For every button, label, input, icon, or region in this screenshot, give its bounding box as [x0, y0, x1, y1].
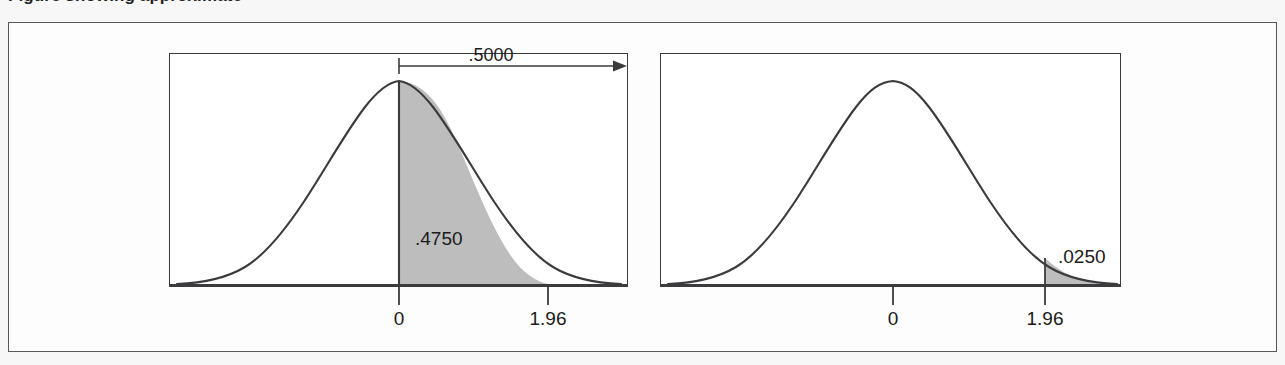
left-axis-tick-label-0: 0: [394, 308, 405, 330]
figure-caption-clipped: Figure showing approximate: [8, 0, 608, 8]
left-shaded-area: [399, 81, 548, 285]
right-panel-graphics: [660, 53, 1130, 333]
right-axis-tick-label-196: 1.96: [1027, 308, 1064, 330]
left-axis-tick-label-196: 1.96: [530, 308, 567, 330]
right-axis-tick-label-0: 0: [888, 308, 899, 330]
left-panel-graphics: [169, 53, 639, 333]
left-dimension-label: .5000: [468, 45, 513, 66]
right-normal-curve: [668, 81, 1117, 284]
left-area-label: .4750: [415, 228, 463, 250]
right-panel: .0250 0 1.96: [660, 53, 1130, 333]
right-area-label: .0250: [1058, 246, 1106, 268]
left-panel: .5000 .4750 0 1.96: [169, 53, 639, 333]
left-dimension-arrowhead: [613, 61, 627, 72]
figure-frame: .5000 .4750 0 1.96 .0250: [8, 22, 1277, 352]
